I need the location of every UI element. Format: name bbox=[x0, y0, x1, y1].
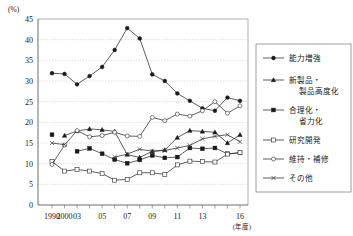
data-point-能力増強 bbox=[100, 65, 104, 69]
legend-label-研究開発: 研究開発 bbox=[289, 135, 321, 145]
data-point-研究開発 bbox=[213, 160, 217, 164]
data-point-合理化・省力化 bbox=[138, 158, 142, 162]
data-point-研究開発 bbox=[100, 172, 104, 176]
x-tick-label: 11 bbox=[173, 212, 181, 221]
data-point-能力増強 bbox=[63, 72, 67, 76]
data-point-能力増強 bbox=[50, 71, 54, 75]
data-point-維持・補修 bbox=[238, 104, 242, 108]
data-point-能力増強 bbox=[175, 92, 179, 96]
data-point-研究開発 bbox=[88, 169, 92, 173]
legend-label-能力増強: 能力増強 bbox=[289, 53, 321, 63]
x-axis-unit-label: (年度) bbox=[233, 222, 251, 231]
legend-label-維持・補修: 維持・補修 bbox=[289, 154, 329, 164]
data-point-能力増強 bbox=[113, 48, 117, 52]
y-tick-label: 15 bbox=[25, 139, 33, 148]
data-point-合理化・省力化 bbox=[75, 149, 79, 153]
series-line-研究開発 bbox=[52, 153, 240, 181]
data-point-維持・補修 bbox=[125, 134, 129, 138]
data-point-維持・補修 bbox=[113, 130, 117, 134]
data-point-維持・補修 bbox=[225, 111, 229, 115]
y-tick-label: 25 bbox=[25, 98, 33, 107]
data-point-新製品・製品高度化 bbox=[188, 128, 192, 132]
legend-label-新製品・製品高度化: 新製品・ bbox=[289, 75, 321, 85]
x-tick-label: 05 bbox=[98, 212, 106, 221]
x-tick-label: 16 bbox=[236, 212, 244, 221]
data-point-能力増強 bbox=[138, 37, 142, 41]
x-tick-label: 09 bbox=[148, 212, 156, 221]
data-point-研究開発 bbox=[150, 171, 154, 175]
data-point-新製品・製品高度化 bbox=[238, 132, 242, 136]
data-point-能力増強 bbox=[163, 79, 167, 83]
data-point-研究開発 bbox=[163, 172, 167, 176]
data-point-合理化・省力化 bbox=[100, 152, 104, 156]
data-point-能力増強 bbox=[88, 74, 92, 78]
data-point-合理化・省力化 bbox=[88, 146, 92, 150]
data-point-研究開発 bbox=[200, 160, 204, 164]
data-point-研究開発 bbox=[188, 159, 192, 163]
data-point-新製品・製品高度化 bbox=[87, 127, 91, 131]
x-tick-label: 03 bbox=[73, 212, 81, 221]
x-tick-label: 07 bbox=[123, 212, 131, 221]
x-tick-label: 2000 bbox=[57, 212, 73, 221]
y-tick-label: 5 bbox=[29, 180, 33, 189]
y-tick-label: 40 bbox=[25, 36, 33, 45]
data-point-合理化・省力化 bbox=[125, 161, 129, 165]
data-point-能力増強 bbox=[150, 72, 154, 76]
legend-label-その他: その他 bbox=[289, 173, 313, 183]
data-point-能力増強 bbox=[188, 99, 192, 103]
data-point-合理化・省力化 bbox=[213, 146, 217, 150]
data-point-維持・補修 bbox=[50, 162, 54, 166]
data-point-維持・補修 bbox=[75, 129, 79, 133]
y-tick-label: 30 bbox=[25, 77, 33, 86]
legend-marker-合理化・省力化 bbox=[272, 108, 276, 112]
data-point-能力増強 bbox=[75, 82, 79, 86]
data-point-能力増強 bbox=[238, 99, 242, 103]
data-point-維持・補修 bbox=[213, 100, 217, 104]
data-point-維持・補修 bbox=[100, 134, 104, 138]
data-point-研究開発 bbox=[63, 169, 67, 173]
legend-marker-維持・補修 bbox=[272, 157, 276, 161]
data-point-能力増強 bbox=[125, 26, 129, 30]
legend-marker-能力増強 bbox=[272, 56, 276, 60]
data-point-研究開発 bbox=[138, 171, 142, 175]
data-point-研究開発 bbox=[113, 178, 117, 182]
data-point-維持・補修 bbox=[150, 115, 154, 119]
x-tick-label: 13 bbox=[198, 212, 206, 221]
y-tick-label: 0 bbox=[29, 201, 33, 210]
series-line-能力増強 bbox=[52, 28, 240, 111]
data-point-能力増強 bbox=[226, 96, 230, 100]
legend-marker-研究開発 bbox=[272, 138, 276, 142]
data-point-維持・補修 bbox=[88, 135, 92, 139]
data-point-合理化・省力化 bbox=[50, 133, 54, 137]
y-axis-unit-label: (%) bbox=[8, 5, 20, 14]
data-point-能力増強 bbox=[213, 109, 217, 113]
y-tick-label: 10 bbox=[25, 160, 33, 169]
y-tick-label: 35 bbox=[25, 56, 33, 65]
legend-label-合理化・省力化: 合理化・ bbox=[289, 105, 321, 115]
data-point-合理化・省力化 bbox=[175, 155, 179, 159]
series-line-維持・補修 bbox=[52, 102, 240, 165]
data-point-維持・補修 bbox=[163, 119, 167, 123]
data-point-合理化・省力化 bbox=[150, 154, 154, 158]
chart-figure: (%)0510152025303540451990200003050709111… bbox=[0, 0, 353, 236]
data-point-研究開発 bbox=[125, 177, 129, 181]
data-point-研究開発 bbox=[75, 167, 79, 171]
data-point-維持・補修 bbox=[200, 109, 204, 113]
data-point-維持・補修 bbox=[138, 134, 142, 138]
data-point-新製品・製品高度化 bbox=[175, 135, 179, 139]
line-chart: (%)0510152025303540451990200003050709111… bbox=[0, 0, 353, 236]
data-point-維持・補修 bbox=[188, 114, 192, 118]
data-point-研究開発 bbox=[238, 151, 242, 155]
data-point-維持・補修 bbox=[175, 112, 179, 116]
data-point-研究開発 bbox=[175, 163, 179, 167]
data-point-合理化・省力化 bbox=[201, 147, 205, 151]
y-tick-label: 20 bbox=[25, 118, 33, 127]
data-point-合理化・省力化 bbox=[163, 156, 167, 160]
y-tick-label: 45 bbox=[25, 15, 33, 24]
legend-label2-新製品・製品高度化: 製品高度化 bbox=[299, 86, 339, 96]
data-point-研究開発 bbox=[225, 152, 229, 156]
legend-label2-合理化・省力化: 省力化 bbox=[299, 116, 323, 126]
